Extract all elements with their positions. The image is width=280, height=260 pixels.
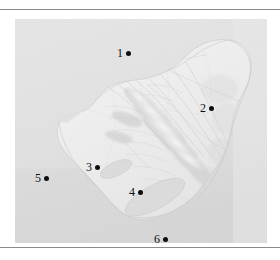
bottom-divider-rule bbox=[0, 247, 280, 248]
map-marker-6-dot bbox=[163, 237, 168, 242]
map-marker-4-label: 4 bbox=[129, 186, 135, 198]
map-marker-3[interactable]: 3 bbox=[86, 161, 100, 173]
map-figure bbox=[15, 19, 267, 243]
map-marker-4-dot bbox=[138, 190, 143, 195]
map-marker-5-label: 5 bbox=[35, 172, 41, 184]
map-marker-1[interactable]: 1 bbox=[117, 47, 131, 59]
map-marker-6[interactable]: 6 bbox=[154, 233, 168, 245]
map-marker-3-label: 3 bbox=[86, 161, 92, 173]
scan-grain-overlay bbox=[15, 19, 267, 243]
map-marker-2-dot bbox=[209, 106, 214, 111]
map-marker-6-label: 6 bbox=[154, 233, 160, 245]
nicaragua-relief-map bbox=[15, 19, 267, 243]
map-marker-2-label: 2 bbox=[200, 102, 206, 114]
map-marker-5[interactable]: 5 bbox=[35, 172, 49, 184]
map-marker-4[interactable]: 4 bbox=[129, 186, 143, 198]
map-marker-5-dot bbox=[44, 176, 49, 181]
top-divider-rule bbox=[0, 9, 280, 10]
map-marker-1-label: 1 bbox=[117, 47, 123, 59]
map-marker-2[interactable]: 2 bbox=[200, 102, 214, 114]
map-marker-3-dot bbox=[95, 165, 100, 170]
map-marker-1-dot bbox=[126, 51, 131, 56]
